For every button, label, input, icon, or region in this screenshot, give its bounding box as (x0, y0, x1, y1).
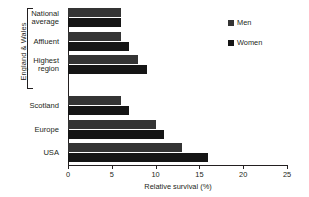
x-tick-mark (112, 166, 113, 169)
bar-men (68, 8, 121, 17)
x-tick-mark (243, 166, 244, 169)
legend-swatch-men-icon (228, 20, 234, 26)
x-tick-label: 20 (231, 170, 255, 179)
category-label: National average (0, 10, 64, 27)
bar-women (68, 106, 129, 115)
bar-men (68, 143, 182, 152)
category-axis-labels: National averageAffluentHighest regionSc… (0, 0, 64, 197)
category-label: Highest region (0, 57, 64, 74)
legend-swatch-women-icon (228, 40, 234, 46)
category-label: Affluent (0, 38, 64, 46)
bar-men (68, 32, 121, 41)
bar-women (68, 18, 121, 27)
x-axis-line (68, 165, 288, 166)
bar-women (68, 42, 129, 51)
category-label: USA (0, 149, 64, 157)
bar-women (68, 130, 164, 139)
bar-men (68, 120, 156, 129)
category-label: Scotland (0, 102, 64, 110)
x-axis-title: Relative survival (%) (68, 182, 288, 191)
x-tick-mark (287, 166, 288, 169)
legend-label-women: Women (237, 38, 262, 47)
bar-women (68, 153, 208, 162)
x-tick-label: 0 (56, 170, 80, 179)
x-tick-label: 25 (275, 170, 299, 179)
x-tick-label: 5 (100, 170, 124, 179)
legend-item-women: Women (228, 38, 262, 47)
x-tick-mark (199, 166, 200, 169)
x-tick-mark (68, 166, 69, 169)
legend-label-men: Men (237, 18, 251, 27)
relative-survival-bar-chart: England & Wales National averageAffluent… (0, 0, 309, 197)
x-tick-mark (156, 166, 157, 169)
bar-men (68, 55, 138, 64)
category-label: Europe (0, 126, 64, 134)
legend-item-men: Men (228, 18, 262, 27)
x-tick-label: 15 (187, 170, 211, 179)
bar-men (68, 96, 121, 105)
legend: Men Women (228, 18, 262, 58)
bar-women (68, 65, 147, 74)
x-tick-label: 10 (144, 170, 168, 179)
